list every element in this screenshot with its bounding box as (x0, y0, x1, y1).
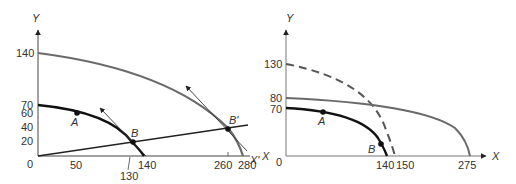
right-panel: Y X X 0 130 80 70 140 150 275 A B (261, 12, 500, 171)
label-B-prime: B' (229, 114, 239, 126)
x-tick-280: 280 (238, 159, 256, 171)
y-axis-label: Y (286, 12, 294, 24)
tangent-at-B (100, 108, 146, 156)
ray-from-origin (38, 125, 248, 156)
point-A (320, 109, 326, 115)
y-tick-130: 130 (264, 58, 282, 70)
y-tick-20: 20 (21, 135, 33, 147)
label-A: A (317, 115, 325, 127)
y-tick-140: 140 (16, 47, 34, 59)
label-B: B (131, 127, 138, 139)
left-panel: Y X' 0 140 70 60 40 20 50 130 140 260 28… (16, 12, 260, 182)
x-tick-275: 275 (458, 159, 476, 171)
y-tick-70: 70 (270, 103, 282, 115)
label-B: B (368, 143, 375, 155)
point-B-prime (225, 126, 231, 132)
y-tick-40: 40 (21, 121, 33, 133)
x-tick-140: 140 (138, 159, 156, 171)
origin-label: 0 (276, 156, 282, 168)
x-tick-150: 150 (396, 159, 414, 171)
point-B (378, 141, 384, 147)
point-A (74, 110, 80, 116)
origin-label: 0 (27, 158, 33, 170)
y-tick-60: 60 (21, 107, 33, 119)
x-axis-label-left: X (261, 150, 270, 162)
x-tick-260: 260 (214, 159, 232, 171)
x-axis-label-right: X (491, 150, 500, 162)
gray-ppf-curve (286, 98, 470, 156)
x-tick-140: 140 (376, 159, 394, 171)
ppf-diagrams: Y X' 0 140 70 60 40 20 50 130 140 260 28… (0, 0, 516, 184)
x-tick-50: 50 (70, 159, 82, 171)
y-axis-label: Y (32, 12, 40, 24)
x-tick-130: 130 (120, 170, 138, 182)
label-A: A (70, 116, 78, 128)
point-B (130, 139, 136, 145)
